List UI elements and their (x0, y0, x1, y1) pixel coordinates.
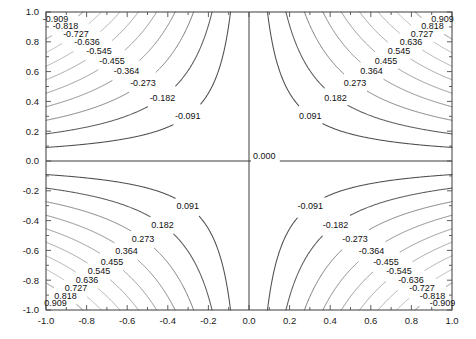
contour-label: -0.091 (175, 111, 201, 121)
x-tick-label: 1.0 (445, 315, 458, 326)
contour-label: 0.091 (299, 111, 322, 121)
x-tick-label: -0.6 (119, 315, 135, 326)
contour-label: 0.455 (375, 56, 398, 66)
contour-label: -0.364 (114, 66, 140, 76)
y-tick-label: 0.2 (26, 126, 39, 137)
contour-label-zero: 0.000 (253, 151, 276, 161)
contour-label: -0.455 (99, 56, 125, 66)
contour-plot-canvas: 0.000 -1.0-0.8-0.6-0.4-0.20.00.20.40.60.… (0, 0, 476, 339)
contour-label: -0.545 (86, 46, 112, 56)
contour-label: -0.091 (297, 201, 323, 211)
contour-label: 0.545 (388, 46, 411, 56)
contour-label: -0.182 (150, 93, 176, 103)
x-tick-label: 0.8 (405, 315, 418, 326)
contour-label: -0.545 (386, 266, 412, 276)
contour-label: 0.182 (151, 220, 174, 230)
x-tick-label: -1.0 (38, 315, 54, 326)
contour-plot: 0.000 -1.0-0.8-0.6-0.4-0.20.00.20.40.60.… (0, 0, 476, 339)
contour-label: 0.182 (324, 93, 347, 103)
x-tick-label: 0.4 (324, 315, 337, 326)
x-tick-label: -0.8 (78, 315, 94, 326)
y-tick-label: 0.8 (26, 36, 39, 47)
contour-label: 0.364 (360, 66, 383, 76)
contour-label: 0.455 (101, 257, 124, 267)
y-tick-label: -0.8 (23, 275, 39, 286)
contour-label: -0.273 (342, 234, 368, 244)
contour-label: -0.636 (398, 275, 424, 285)
contour-label: -0.182 (323, 220, 349, 230)
x-tick-label: 0.0 (242, 315, 255, 326)
y-tick-label: 0.0 (26, 155, 39, 166)
y-tick-label: 0.6 (26, 66, 39, 77)
contour-label: -0.455 (373, 257, 399, 267)
contour-label: 0.364 (115, 246, 138, 256)
y-tick-label: -1.0 (23, 304, 39, 315)
x-tick-label: 0.2 (283, 315, 296, 326)
contour-label: 0.273 (132, 234, 155, 244)
y-tick-label: -0.2 (23, 185, 39, 196)
y-tick-label: 0.4 (26, 96, 39, 107)
x-tick-label: -0.2 (200, 315, 216, 326)
contour-label: 0.273 (344, 78, 367, 88)
contour-label: -0.364 (359, 246, 385, 256)
contour-label: 0.909 (431, 14, 454, 24)
contour-label: 0.091 (177, 201, 200, 211)
contour-label: -0.273 (130, 78, 156, 88)
x-tick-label: -0.4 (160, 315, 176, 326)
y-tick-label: -0.4 (23, 215, 39, 226)
y-tick-label: 1.0 (26, 6, 39, 17)
contour-label: 0.909 (44, 298, 67, 308)
y-tick-label: -0.6 (23, 245, 39, 256)
x-tick-label: 0.6 (364, 315, 377, 326)
